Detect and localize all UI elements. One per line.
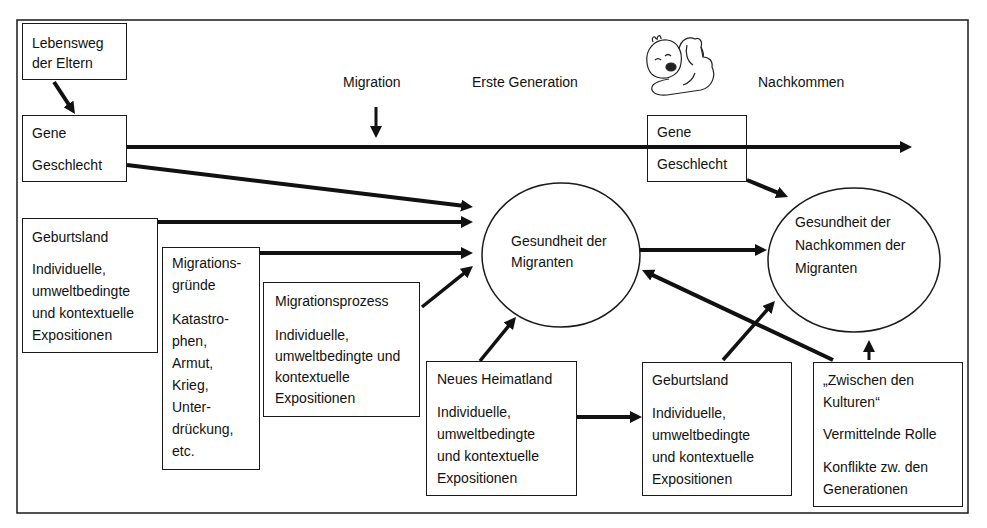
box-title: Migrations- [172, 252, 259, 274]
box-migration-reasons: Migrations- gründe Katastro- phen, Armut… [162, 247, 260, 470]
box-title: „Zwischen den [823, 369, 962, 391]
box-text: Expositionen [32, 324, 157, 346]
migration-label: Migration [343, 71, 401, 93]
box-text: Individuelle, [652, 402, 791, 424]
box-body: Individuelle, umweltbedingte und kontext… [275, 325, 419, 409]
sex-label: Geschlecht [657, 153, 746, 175]
box-body: Katastro- phen, Armut, Krieg, Unter- drü… [172, 308, 259, 462]
descendant-health-label: Gesundheit der Nachkommen der Migranten [795, 211, 906, 280]
box-text: etc. [172, 440, 259, 462]
box-parents-life-course: Lebensweg der Eltern [22, 23, 127, 80]
ellipse-text-line: Migranten [795, 257, 906, 280]
arrow-homeland-to-migrant-health [480, 322, 512, 361]
mediating-role-text: Vermittelnde Rolle [823, 423, 962, 445]
box-text: umweltbedingte und [275, 346, 419, 367]
box-migration-process: Migrationsprozess Individuelle, umweltbe… [263, 282, 420, 417]
box-text: kontextuelle [275, 367, 419, 388]
arrow-birthcountry2-to-descendant-health [723, 306, 771, 361]
box-between-cultures: „Zwischen den Kulturen“ Vermittelnde Rol… [813, 362, 963, 507]
box-country-of-birth: Geburtsland Individuelle, umweltbedingte… [22, 218, 158, 353]
box-body: Individuelle, umweltbedingte und kontext… [437, 401, 576, 489]
box-text: Konflikte zw. den [823, 456, 962, 478]
arrow-sex2-to-descendant-health [747, 180, 783, 195]
ellipse-text-line: Gesundheit der [795, 211, 906, 234]
arrow-between-cultures-to-migrant-health [647, 273, 833, 360]
ellipse-text-line: Nachkommen der [795, 234, 906, 257]
box-text: Individuelle, [32, 258, 157, 280]
genes-label: Gene [657, 121, 746, 143]
migrant-health-label: Gesundheit der Migranten [511, 231, 607, 273]
descendants-label: Nachkommen [758, 71, 844, 93]
box-text: drückung, [172, 418, 259, 440]
migration-health-diagram: Migration Erste Generation Nachkommen Le… [0, 0, 987, 528]
box-descendants-country-of-birth: Geburtsland Individuelle, umweltbedingte… [642, 362, 792, 496]
box-text: phen, [172, 330, 259, 352]
box-body: Individuelle, umweltbedingte und kontext… [652, 402, 791, 490]
box-text: Unter- [172, 396, 259, 418]
box-text: Katastro- [172, 308, 259, 330]
first-generation-label: Erste Generation [472, 71, 578, 93]
box-genes-sex-descendants: Gene Geschlecht [647, 115, 747, 182]
genes-label: Gene [32, 122, 126, 144]
box-title: gründe [172, 274, 259, 296]
box-text: Individuelle, [437, 401, 576, 423]
arrow-process-to-migrant-health [422, 270, 468, 307]
box-title: Geburtsland [32, 226, 157, 248]
box-text: umweltbedingte [32, 280, 157, 302]
box-text: Expositionen [652, 468, 791, 490]
box-title: Migrationsprozess [275, 290, 419, 312]
box-text: umweltbedingte [652, 424, 791, 446]
box-text: Lebensweg [32, 33, 126, 53]
box-text: und kontextuelle [437, 445, 576, 467]
ellipse-text-line: Migranten [511, 252, 607, 273]
box-text: Armut, [172, 352, 259, 374]
box-text: Expositionen [275, 388, 419, 409]
box-genes-sex-first-generation: Gene Geschlecht [22, 115, 127, 182]
arrow-sex-to-migrant-health [127, 165, 467, 206]
box-text: Krieg, [172, 374, 259, 396]
box-text: und kontextuelle [652, 446, 791, 468]
box-title: Neues Heimatland [437, 368, 576, 390]
box-new-homeland: Neues Heimatland Individuelle, umweltbed… [426, 361, 577, 496]
box-text: umweltbedingte [437, 423, 576, 445]
sex-label: Geschlecht [32, 154, 126, 176]
ellipse-text-line: Gesundheit der [511, 231, 607, 252]
box-title: Geburtsland [652, 369, 791, 391]
box-body: Individuelle, umweltbedingte und kontext… [32, 258, 157, 346]
baby-icon [647, 36, 714, 95]
box-text: Generationen [823, 478, 962, 500]
box-text: Individuelle, [275, 325, 419, 346]
box-text: Expositionen [437, 467, 576, 489]
box-text: und kontextuelle [32, 302, 157, 324]
box-text: der Eltern [32, 53, 126, 73]
arrow-parents-to-genes [54, 82, 72, 109]
box-title: Kulturen“ [823, 391, 962, 413]
generational-conflict-text: Konflikte zw. den Generationen [823, 456, 962, 500]
